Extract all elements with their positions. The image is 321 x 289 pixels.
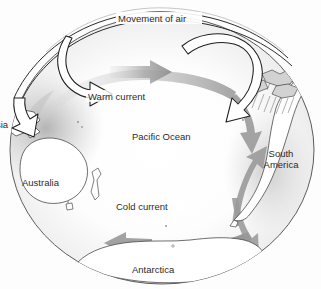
pacific-island-dot (67, 201, 69, 203)
label-cold-current: Cold current (116, 201, 168, 212)
label-australia: Australia (22, 177, 59, 188)
label-south-america-line2: America (264, 159, 299, 170)
label-pacific-ocean: Pacific Ocean (132, 131, 191, 142)
pacific-island-dot (81, 126, 83, 128)
tasmania-island (66, 203, 73, 210)
pacific-island-dot (165, 225, 167, 227)
label-south-america: South America (264, 148, 299, 170)
label-warm-current: Warm current (88, 91, 145, 102)
pacific-island-dot (242, 119, 244, 121)
label-asia-clipped: sia (0, 119, 8, 130)
label-south-america-line1: South (264, 148, 299, 159)
diagram-canvas: Movement of air Warm current Pacific Oce… (0, 0, 321, 289)
label-movement-of-air: Movement of air (118, 13, 186, 24)
pacific-circulation-diagram (0, 0, 321, 289)
label-antarctica: Antarctica (132, 264, 174, 275)
pacific-island-dot (77, 121, 79, 123)
